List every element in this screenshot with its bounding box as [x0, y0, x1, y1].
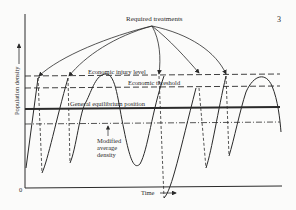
- y-axis-label: Population density: [13, 66, 20, 115]
- x-axis-label: Time: [141, 189, 155, 197]
- economic-injury-level-line: [25, 74, 280, 76]
- treatment-drop-2: [68, 78, 70, 163]
- required-treatments-label: Required treatments: [126, 15, 183, 23]
- diagram-root: 3 Required treatments Economic injury le…: [0, 0, 296, 210]
- treatment-drop-1: [38, 78, 42, 173]
- population-curve: [26, 74, 281, 198]
- origin-label: 0: [19, 186, 22, 194]
- page-number: 3: [277, 16, 281, 24]
- treatment-drop-4: [199, 88, 206, 168]
- treatment-drop-3: [159, 76, 164, 198]
- economic-threshold-label: Economic threshold: [128, 79, 180, 87]
- x-axis: [25, 186, 282, 188]
- general-equilibrium-label: General equilibrium position: [70, 100, 145, 108]
- economic-injury-level-label: Economic injury level: [88, 68, 146, 76]
- treatment-arrow-3: [152, 26, 160, 74]
- treatment-arrow-5: [152, 26, 226, 74]
- modified-average-density-line: [25, 122, 280, 124]
- modified-average-label-3: density: [97, 151, 116, 159]
- treatment-drop-5: [226, 76, 229, 156]
- population-dynamics-diagram: [0, 0, 296, 210]
